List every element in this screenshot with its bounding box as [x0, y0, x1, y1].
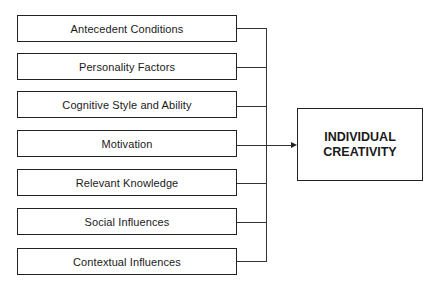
connector-line — [237, 67, 267, 68]
connector-line — [237, 106, 267, 107]
factor-box-social-influences: Social Influences — [17, 208, 237, 235]
factor-box-motivation: Motivation — [17, 130, 237, 157]
factor-box-antecedent-conditions: Antecedent Conditions — [17, 15, 237, 42]
factor-label: Personality Factors — [79, 61, 175, 73]
outcome-label-line1: INDIVIDUAL — [324, 130, 396, 145]
connector-line — [237, 183, 267, 184]
factor-label: Relevant Knowledge — [76, 177, 179, 189]
outcome-label-line2: CREATIVITY — [323, 145, 396, 160]
connector-line — [237, 222, 267, 223]
factor-box-relevant-knowledge: Relevant Knowledge — [17, 169, 237, 196]
factor-label: Cognitive Style and Ability — [62, 99, 191, 111]
factor-label: Motivation — [101, 138, 152, 150]
arrow-line — [237, 145, 292, 146]
factor-label: Contextual Influences — [73, 256, 181, 268]
connector-line — [237, 261, 267, 262]
factor-label: Antecedent Conditions — [71, 23, 184, 35]
factor-box-contextual-influences: Contextual Influences — [17, 248, 237, 275]
factor-box-personality-factors: Personality Factors — [17, 53, 237, 80]
connector-line — [237, 28, 267, 29]
factor-label: Social Influences — [85, 216, 170, 228]
factor-box-cognitive-style: Cognitive Style and Ability — [17, 91, 237, 118]
outcome-box-individual-creativity: INDIVIDUAL CREATIVITY — [297, 108, 423, 181]
